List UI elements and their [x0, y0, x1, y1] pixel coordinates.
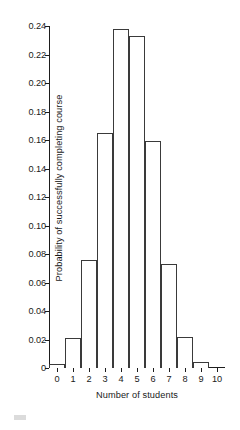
x-axis-tick-labels: 012345678910: [49, 374, 225, 388]
histogram-bar: [113, 29, 129, 368]
y-tick-label: 0: [2, 363, 46, 373]
y-tick-label: 0.08: [2, 249, 46, 259]
histogram-bar: [65, 338, 81, 368]
y-tick-mark: [45, 226, 49, 227]
x-axis-title: Number of students: [49, 390, 225, 400]
y-tick-label: 0.10: [2, 221, 46, 231]
x-tick-mark: [169, 368, 170, 372]
y-tick-mark: [45, 197, 49, 198]
probability-histogram-figure: Probability of successfully completing c…: [0, 0, 240, 430]
y-tick-mark: [45, 26, 49, 27]
y-tick-label: 0.12: [2, 192, 46, 202]
y-tick-label: 0.22: [2, 50, 46, 60]
x-tick-mark: [185, 368, 186, 372]
x-tick-mark: [201, 368, 202, 372]
histogram-bar: [161, 264, 177, 368]
x-tick-mark: [89, 368, 90, 372]
x-tick-mark: [137, 368, 138, 372]
y-tick-mark: [45, 112, 49, 113]
y-tick-mark: [45, 55, 49, 56]
y-tick-mark: [45, 83, 49, 84]
histogram-bar: [177, 337, 193, 368]
plot-area: [49, 26, 225, 368]
y-tick-label: 0.18: [2, 107, 46, 117]
x-tick-mark: [73, 368, 74, 372]
y-tick-label: 0.02: [2, 335, 46, 345]
y-tick-label: 0.24: [2, 21, 46, 31]
histogram-bar: [145, 141, 161, 368]
y-tick-mark: [45, 254, 49, 255]
histogram-bar: [193, 362, 209, 368]
y-tick-label: 0.14: [2, 164, 46, 174]
scan-artifact-mark: [14, 415, 26, 420]
histogram-bar: [129, 36, 145, 368]
x-tick-mark: [153, 368, 154, 372]
x-tick-mark: [105, 368, 106, 372]
y-tick-label: 0.16: [2, 135, 46, 145]
x-tick-mark: [217, 368, 218, 372]
y-tick-mark: [45, 311, 49, 312]
y-axis-tick-labels: 00.020.040.060.080.100.120.140.160.180.2…: [0, 0, 46, 430]
x-tick-mark: [57, 368, 58, 372]
y-tick-label: 0.20: [2, 78, 46, 88]
y-axis-spine: [49, 26, 50, 368]
histogram-bar: [49, 364, 65, 368]
y-tick-mark: [45, 283, 49, 284]
histogram-bar: [97, 133, 113, 368]
x-tick-label: 10: [207, 374, 227, 384]
x-tick-mark: [121, 368, 122, 372]
y-tick-mark: [45, 169, 49, 170]
y-tick-label: 0.04: [2, 306, 46, 316]
y-tick-mark: [45, 140, 49, 141]
histogram-bar: [81, 260, 97, 368]
y-tick-label: 0.06: [2, 278, 46, 288]
y-tick-mark: [45, 340, 49, 341]
y-tick-mark: [45, 368, 49, 369]
